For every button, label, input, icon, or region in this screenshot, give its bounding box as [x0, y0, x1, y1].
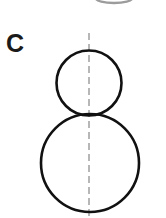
circles-group: [41, 51, 139, 213]
figure-diagram: [0, 0, 166, 218]
partial-arc-from-figure-above-icon: [96, 0, 132, 3]
lower-large-circle: [41, 114, 139, 212]
cropped-fragment-group: [96, 0, 132, 3]
figure-panel-c: C: [0, 0, 166, 218]
